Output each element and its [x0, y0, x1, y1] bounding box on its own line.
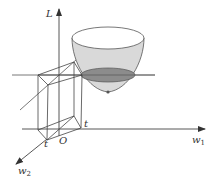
diagram-canvas: L w1 w2 O t t: [0, 0, 215, 182]
w1-axis-label: w1: [192, 134, 205, 147]
bowl-top-rim: [72, 27, 144, 49]
origin-label: O: [59, 135, 67, 146]
minimum-point: [106, 90, 109, 93]
l1-regularization-diagram: L w1 w2 O t t: [0, 0, 215, 182]
w2-axis-label: w2: [18, 165, 31, 178]
t-label-right: t: [84, 118, 89, 129]
w2-axis: [16, 139, 47, 164]
l1-constraint-prism: [38, 62, 82, 140]
l-axis-label: L: [45, 8, 53, 19]
